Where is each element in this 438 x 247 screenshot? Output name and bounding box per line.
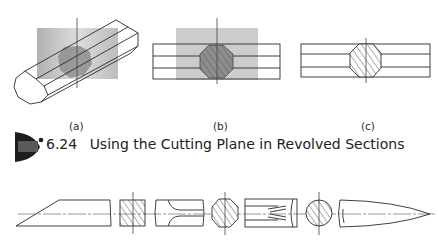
chamfered-end-bar xyxy=(16,200,111,226)
panel-b-label: (b) xyxy=(213,120,228,132)
panel-c-finished xyxy=(301,38,430,83)
figure-canvas: (a) (b) (c) xyxy=(0,0,438,247)
panel-c-label: (c) xyxy=(361,120,375,132)
figure-number: 6.24 xyxy=(46,136,77,152)
circular-section xyxy=(306,192,332,235)
tapered-pointed-end xyxy=(339,200,431,227)
panel-b-orthographic xyxy=(153,18,280,84)
bottom-row-revolved-sections xyxy=(16,192,435,235)
bar-with-fluted-ends xyxy=(245,199,297,227)
panel-a-label: (a) xyxy=(69,120,84,132)
panel-a-pictorial xyxy=(14,18,138,104)
octagonal-section xyxy=(212,192,238,235)
figure-caption: 6.24 Using the Cutting Plane in Revolved… xyxy=(46,136,404,152)
cylindrical-bar-with-flats xyxy=(155,200,204,226)
figure-title: Using the Cutting Plane in Revolved Sect… xyxy=(90,136,405,152)
